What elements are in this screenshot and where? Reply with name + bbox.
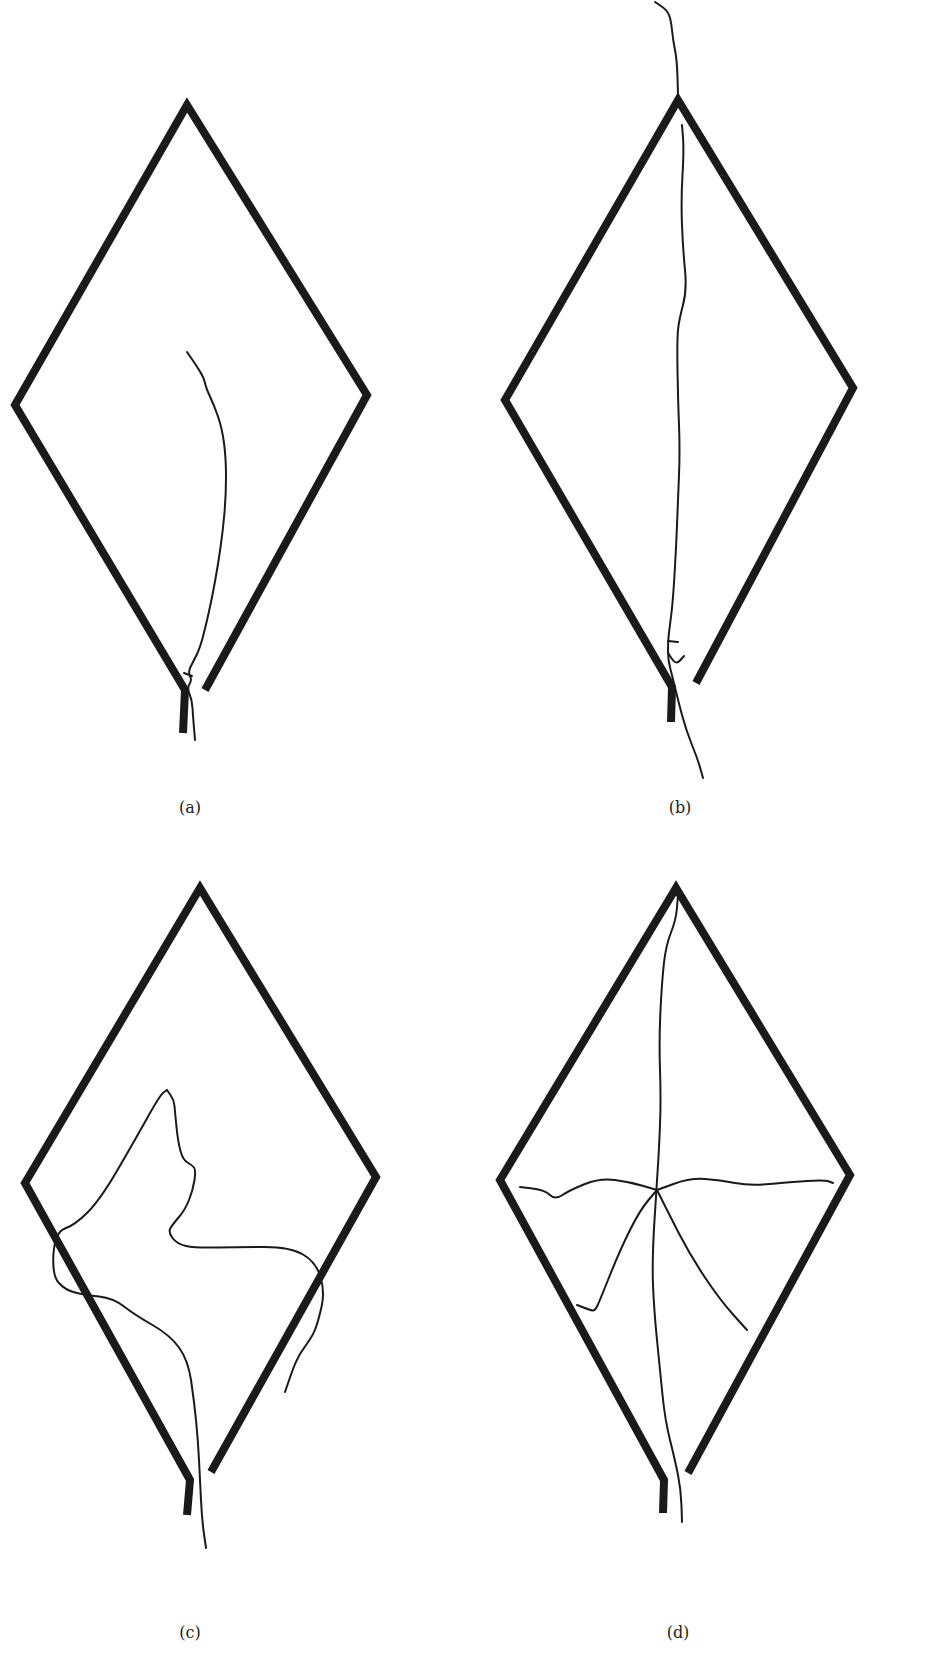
- specimen-frame-d: [500, 888, 850, 1513]
- panel-d: [500, 888, 850, 1522]
- figure-canvas: [0, 0, 928, 1659]
- crack-path-d-5: [657, 1190, 747, 1330]
- crack-path-d-2: [520, 1180, 657, 1198]
- panel-a: [15, 105, 367, 740]
- crack-path-d-4: [577, 1190, 657, 1311]
- crack-path-d-3: [657, 1179, 833, 1190]
- panel-label-a: (a): [179, 798, 201, 817]
- panel-label-d: (d): [667, 1623, 690, 1642]
- crack-path-c-1: [167, 1090, 323, 1392]
- specimen-frame-c: [25, 888, 376, 1515]
- crack-path-b-1: [655, 2, 678, 95]
- panel-b: [505, 2, 853, 778]
- crack-path-b-3: [668, 641, 678, 642]
- panel-label-b: (b): [669, 798, 692, 817]
- panel-label-c: (c): [179, 1623, 200, 1642]
- crack-path-b-4: [668, 653, 684, 662]
- crack-path-a-2: [184, 673, 192, 676]
- specimen-frame-a: [15, 105, 367, 733]
- panel-c: [25, 888, 376, 1548]
- crack-propagation-figure: (a) (b) (c) (d): [0, 0, 928, 1659]
